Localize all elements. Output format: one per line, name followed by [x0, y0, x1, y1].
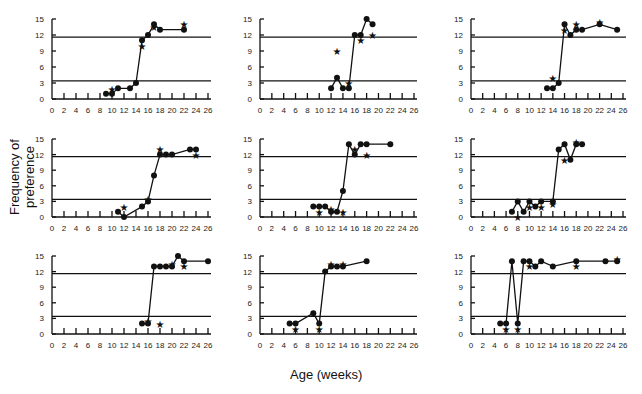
x-tick-label: 2 [62, 224, 67, 233]
x-tick-label: 4 [492, 224, 497, 233]
data-point [310, 310, 316, 316]
x-tick-label: 6 [86, 106, 91, 115]
star-marker: ★ [291, 324, 300, 335]
x-tick-label: 26 [410, 341, 419, 350]
data-point [121, 214, 127, 220]
x-tick-label: 14 [548, 341, 557, 350]
x-tick-label: 8 [305, 341, 310, 350]
x-tick-label: 16 [560, 341, 569, 350]
x-tick-label: 16 [350, 341, 359, 350]
star-marker: ★ [333, 46, 342, 57]
x-tick-label: 16 [350, 106, 359, 115]
x-tick-label: 20 [168, 224, 177, 233]
data-point [157, 263, 163, 269]
x-tick-label: 2 [480, 106, 485, 115]
x-tick-label: 8 [516, 106, 521, 115]
x-tick-label: 22 [386, 224, 395, 233]
y-tick-label: 3 [459, 79, 464, 88]
star-marker: ★ [327, 259, 336, 270]
x-tick-label: 26 [204, 341, 213, 350]
y-tick-label: 6 [459, 299, 464, 308]
x-tick-label: 8 [98, 341, 103, 350]
x-tick-label: 22 [595, 224, 604, 233]
y-tick-label: 9 [40, 47, 45, 56]
data-point [169, 152, 175, 158]
data-point [538, 258, 544, 264]
x-tick-label: 24 [607, 341, 616, 350]
star-marker: ★ [572, 19, 581, 30]
x-tick-label: 18 [362, 341, 371, 350]
y-tick-label: 12 [35, 151, 44, 160]
panel-7: 0369121502468101214161820222426★★★★ [35, 252, 213, 350]
data-point [151, 263, 157, 269]
star-marker: ★ [156, 144, 165, 155]
x-tick-label: 20 [168, 106, 177, 115]
x-tick-label: 8 [98, 106, 103, 115]
star-marker: ★ [537, 202, 546, 213]
x-tick-label: 6 [293, 106, 298, 115]
y-tick-label: 3 [459, 197, 464, 206]
y-tick-label: 12 [454, 151, 463, 160]
x-tick-label: 20 [583, 341, 592, 350]
x-tick-label: 6 [86, 224, 91, 233]
x-tick-label: 24 [192, 341, 201, 350]
x-tick-label: 2 [480, 341, 485, 350]
series-line [512, 144, 582, 212]
panel-1: 0369121502468101214161820222426★★★★ [35, 15, 213, 115]
y-tick-label: 15 [454, 252, 463, 261]
star-marker: ★ [338, 259, 347, 270]
y-tick-label: 6 [248, 299, 253, 308]
x-tick-label: 20 [583, 106, 592, 115]
star-marker: ★ [513, 212, 522, 223]
star-marker: ★ [138, 41, 147, 52]
x-tick-label: 0 [50, 224, 55, 233]
x-tick-label: 0 [469, 106, 474, 115]
y-tick-label: 6 [40, 299, 45, 308]
x-tick-label: 2 [270, 224, 275, 233]
y-tick-label: 9 [459, 283, 464, 292]
star-marker: ★ [362, 150, 371, 161]
x-tick-label: 12 [537, 224, 546, 233]
x-tick-label: 18 [156, 106, 165, 115]
x-tick-label: 12 [537, 106, 546, 115]
small-multiples-chart: 0369121502468101214161820222426★★★★03691… [0, 0, 642, 394]
x-tick-label: 6 [504, 224, 509, 233]
data-point [614, 27, 620, 33]
star-marker: ★ [144, 194, 153, 205]
data-point [387, 141, 393, 147]
x-tick-label: 16 [144, 341, 153, 350]
x-tick-label: 14 [338, 106, 347, 115]
data-point [364, 258, 370, 264]
star-marker: ★ [180, 19, 189, 30]
x-tick-label: 12 [327, 224, 336, 233]
x-tick-label: 4 [492, 341, 497, 350]
y-tick-label: 12 [35, 31, 44, 40]
x-tick-label: 6 [293, 341, 298, 350]
y-tick-label: 12 [243, 151, 252, 160]
y-tick-label: 15 [35, 252, 44, 261]
x-tick-label: 24 [398, 224, 407, 233]
x-tick-label: 14 [132, 224, 141, 233]
y-tick-label: 9 [40, 283, 45, 292]
star-marker: ★ [180, 261, 189, 272]
x-tick-label: 0 [258, 106, 263, 115]
x-tick-label: 4 [281, 106, 286, 115]
y-tick-label: 0 [248, 95, 253, 104]
x-tick-label: 0 [469, 224, 474, 233]
y-tick-label: 3 [40, 314, 45, 323]
series-line [290, 261, 367, 323]
y-tick-label: 3 [248, 314, 253, 323]
x-tick-label: 22 [595, 106, 604, 115]
y-tick-label: 0 [459, 95, 464, 104]
x-tick-label: 22 [595, 341, 604, 350]
y-tick-label: 12 [243, 268, 252, 277]
data-point [151, 172, 157, 178]
panel-9: 0369121502468101214161820222426★★★★★ [454, 252, 628, 350]
y-tick-label: 15 [454, 135, 463, 144]
x-tick-label: 12 [120, 341, 129, 350]
x-tick-label: 24 [192, 106, 201, 115]
series-line [547, 24, 617, 88]
star-marker: ★ [548, 199, 557, 210]
y-tick-label: 12 [243, 31, 252, 40]
x-tick-label: 6 [293, 224, 298, 233]
